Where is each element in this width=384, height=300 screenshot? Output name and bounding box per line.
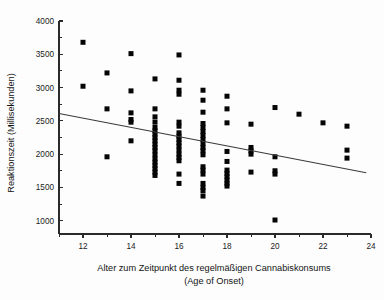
data-point: [105, 70, 110, 75]
trendline-group: [59, 114, 366, 173]
data-point: [249, 170, 254, 175]
data-point: [177, 52, 182, 57]
x-tick-label: 12: [78, 242, 88, 251]
x-tick-label: 14: [126, 242, 136, 251]
data-point: [249, 122, 254, 127]
data-point: [105, 106, 110, 111]
data-point: [153, 173, 158, 178]
data-point: [201, 194, 206, 199]
data-point: [129, 51, 134, 56]
data-point: [129, 138, 134, 143]
y-tick-label: 4000: [36, 17, 55, 26]
data-point-group: [81, 40, 350, 223]
data-point: [153, 76, 158, 81]
data-point: [129, 110, 134, 115]
y-tick-label: 3500: [36, 50, 55, 59]
x-axis-subtitle: (Age of Onset): [184, 276, 244, 286]
data-point: [273, 105, 278, 110]
data-point: [225, 106, 230, 111]
data-point: [81, 84, 86, 89]
y-axis-title: Reaktionszeit (Millisekunden): [6, 73, 16, 193]
data-point: [345, 124, 350, 129]
data-point: [225, 184, 230, 189]
axis-title-group: Reaktionszeit (Millisekunden) Alter zum …: [6, 73, 331, 286]
x-tick-label: 20: [270, 242, 280, 251]
y-tick-label: 3000: [36, 84, 55, 93]
data-point: [177, 181, 182, 186]
scatter-plot: 1000150020002500300035004000 12141618202…: [0, 0, 384, 300]
data-point: [273, 218, 278, 223]
data-point: [201, 110, 206, 115]
x-tick-label: 22: [318, 242, 328, 251]
x-tick-label: 16: [174, 242, 184, 251]
data-point: [129, 88, 134, 93]
data-point: [321, 120, 326, 125]
y-tick-label: 2000: [36, 150, 55, 159]
data-point: [225, 149, 230, 154]
data-point: [153, 106, 158, 111]
x-axis-title: Alter zum Zeitpunkt des regelmäßigen Can…: [97, 263, 331, 273]
data-point: [105, 154, 110, 159]
data-point: [153, 120, 158, 125]
regression-line: [59, 114, 366, 173]
data-point: [345, 156, 350, 161]
data-point: [177, 124, 182, 129]
axes-group: [59, 21, 371, 234]
data-point: [177, 78, 182, 83]
data-point: [249, 152, 254, 157]
data-point: [297, 112, 302, 117]
y-tick-label: 2500: [36, 117, 55, 126]
data-point: [153, 114, 158, 119]
data-point: [201, 98, 206, 103]
data-point: [225, 159, 230, 164]
data-point: [345, 148, 350, 153]
data-point: [201, 172, 206, 177]
chart-figure: 1000150020002500300035004000 12141618202…: [0, 0, 384, 300]
data-point: [225, 94, 230, 99]
data-point: [201, 188, 206, 193]
y-tick-label: 1500: [36, 183, 55, 192]
data-point: [201, 152, 206, 157]
data-point: [129, 120, 134, 125]
y-tick-label: 1000: [36, 217, 55, 226]
data-point: [273, 172, 278, 177]
data-point: [225, 120, 230, 125]
data-point: [177, 172, 182, 177]
data-point: [81, 40, 86, 45]
data-point: [177, 158, 182, 163]
data-point: [201, 88, 206, 93]
data-point: [177, 92, 182, 97]
x-tick-group: 12141618202224: [59, 234, 376, 251]
x-tick-label: 24: [366, 242, 376, 251]
x-tick-label: 18: [222, 242, 232, 251]
